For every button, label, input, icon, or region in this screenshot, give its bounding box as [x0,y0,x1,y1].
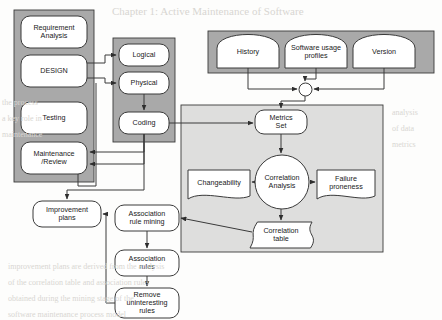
diagram-svg [0,0,442,320]
junction-shape [299,83,312,96]
software-usage-profiles-shape [285,34,347,68]
failure-proneness-shape [317,170,375,199]
association-rule-mining-shape [115,205,179,231]
remove-to-improvement-connector [103,214,115,303]
improvement-plans-shape [33,201,101,227]
logical-shape [119,44,169,66]
design-shape [21,55,87,87]
version-shape [353,34,415,68]
changeability-shape [188,170,250,199]
testing-shape [21,102,87,134]
metrics-set-shape [255,110,307,134]
requirement-analysis-shape [21,16,87,48]
remove-uninteresting-rules-shape [115,288,179,318]
association-rules-shape [115,250,179,276]
coding-shape [119,112,169,134]
history-shape [217,34,279,68]
maintenance-review-shape [21,142,87,174]
diagram-canvas: Requirement AnalysisDESIGNTestingMainten… [0,0,442,320]
physical-shape [119,72,169,94]
correlation-analysis-shape [255,155,309,209]
correlation-table-shape [250,222,313,248]
